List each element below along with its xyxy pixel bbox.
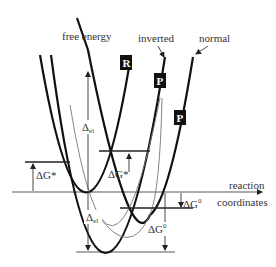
lambda-upper-label: Δel: [80, 120, 98, 135]
inverted-label: inverted: [138, 32, 175, 44]
svg-text:P: P: [177, 112, 184, 124]
axis-label-coordinates: coordinates: [217, 196, 268, 208]
normal-pointer-arrow: [196, 46, 208, 54]
svg-text:R: R: [123, 57, 132, 69]
inverted-pointer-arrow: [158, 46, 164, 57]
axis-label-reaction: reaction: [229, 179, 265, 191]
lambda-lower-label: Δel: [84, 210, 102, 225]
reactant-label-box: R: [120, 55, 132, 70]
marcus-energy-diagram: free energy inverted normal R P P Δel Δe…: [0, 0, 276, 267]
activation-left-label: ΔG*: [36, 169, 57, 181]
dg0-large-label: ΔG0: [146, 222, 170, 236]
dg0-small-label: ΔG0: [183, 197, 202, 210]
activation-mid-label: ΔG*: [108, 168, 129, 180]
normal-label: normal: [199, 32, 230, 44]
free-energy-label: free energy: [62, 30, 112, 42]
inverted-product-label-box: P: [154, 73, 166, 88]
svg-text:P: P: [157, 75, 164, 87]
normal-product-label-box: P: [174, 110, 186, 125]
